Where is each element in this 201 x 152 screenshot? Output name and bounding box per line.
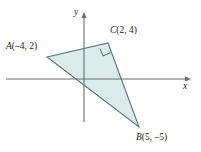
point-label-b: B(5, –5) xyxy=(136,133,167,143)
geometry-diagram-svg xyxy=(0,0,201,152)
point-coords-c: (2, 4) xyxy=(116,25,137,35)
x-axis-label: x xyxy=(183,82,187,92)
point-label-c: C(2, 4) xyxy=(110,26,137,36)
point-coords-b: (5, –5) xyxy=(142,132,167,142)
triangle-abc-shape xyxy=(47,43,139,127)
point-coords-a: (–4, 2) xyxy=(12,41,37,51)
coordinate-plane-figure: A(–4, 2) C(2, 4) B(5, –5) x y xyxy=(0,0,201,152)
y-axis-label: y xyxy=(74,8,78,18)
point-label-a: A(–4, 2) xyxy=(6,42,37,52)
y-axis-arrowhead xyxy=(81,12,86,18)
